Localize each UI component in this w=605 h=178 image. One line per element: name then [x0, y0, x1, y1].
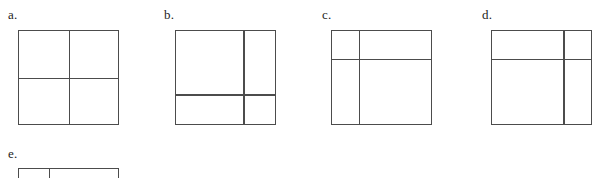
- figure-e-square: [18, 168, 119, 178]
- figure-b-horizontal-divider: [176, 94, 275, 95]
- figure-c-horizontal-divider: [332, 59, 431, 60]
- figure-c-square: [331, 30, 432, 125]
- figure-b-square: [175, 30, 276, 125]
- figure-a-horizontal-divider: [19, 78, 118, 79]
- figure-a-label: a.: [8, 8, 17, 21]
- figure-b-vertical-divider: [243, 31, 244, 124]
- figure-d-vertical-divider: [563, 31, 564, 124]
- figure-e-vertical-divider: [49, 169, 50, 178]
- figure-e-label: e.: [8, 147, 17, 160]
- figure-c-label: c.: [322, 8, 331, 21]
- figure-c-vertical-divider: [359, 31, 360, 124]
- figure-d-square: [491, 30, 592, 125]
- figure-d-horizontal-divider: [492, 59, 591, 60]
- figure-d-label: d.: [482, 8, 492, 21]
- figure-b-label: b.: [164, 8, 174, 21]
- figure-a-square: [18, 30, 119, 125]
